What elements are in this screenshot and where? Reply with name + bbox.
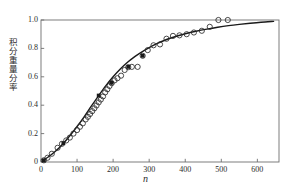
x-tick-label: 600 [242,165,272,174]
x-tick-label: 500 [206,165,236,174]
chart-figure: 积分重量分率 n 00.20.40.60.81.0 01002003004005… [0,0,291,190]
axis-ticks [41,20,257,162]
x-axis-label: n [0,173,291,184]
y-tick-label: 0.8 [13,43,38,52]
x-tick-label: 400 [170,165,200,174]
y-tick-label: 0.2 [13,129,38,138]
y-tick-label: 1.0 [13,15,38,24]
x-tick-label: 100 [62,165,92,174]
y-tick-label: 0.4 [13,100,38,109]
filled-square-data-points [42,54,145,162]
chart-plot-area [0,0,291,190]
x-tick-label: 0 [26,165,56,174]
y-tick-label: 0.6 [13,72,38,81]
x-tick-label: 300 [134,165,164,174]
x-tick-label: 200 [98,165,128,174]
open-circle-data-points [41,17,230,163]
axis-frame [41,20,279,162]
